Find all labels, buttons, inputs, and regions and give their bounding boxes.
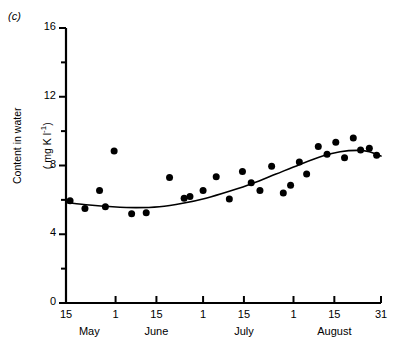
data-point [268, 163, 275, 170]
data-point [102, 203, 109, 210]
data-point [303, 171, 310, 178]
x-tick-label: 1 [279, 308, 309, 320]
panel-letter: (c) [8, 10, 21, 22]
data-point [332, 139, 339, 146]
data-point [366, 145, 373, 152]
x-tick-label: 1 [101, 308, 131, 320]
data-point [213, 173, 220, 180]
data-point [287, 182, 294, 189]
data-point [226, 196, 233, 203]
y-axis-label-line2-post: ) [41, 122, 53, 126]
data-point [357, 147, 364, 154]
month-label: August [304, 325, 364, 337]
x-tick-label: 1 [188, 308, 218, 320]
y-tick-label: 0 [20, 295, 56, 307]
data-point [280, 190, 287, 197]
month-label: May [59, 325, 119, 337]
x-tick-label: 15 [229, 308, 259, 320]
data-point [373, 152, 380, 159]
y-tick-label: 8 [20, 158, 56, 170]
data-point [111, 147, 118, 154]
data-point [128, 210, 135, 217]
trend-line-path [66, 150, 381, 207]
scatter-plot [0, 0, 402, 347]
data-point [315, 143, 322, 150]
data-point [81, 205, 88, 212]
month-label: July [214, 325, 274, 337]
y-axis-label-exponent: -1 [39, 126, 48, 133]
data-point [166, 174, 173, 181]
data-point [200, 187, 207, 194]
y-axis-label-line1: Content in water [11, 108, 23, 184]
y-tick-label: 4 [20, 226, 56, 238]
y-tick-label: 12 [20, 89, 56, 101]
data-point [186, 193, 193, 200]
x-tick-label: 15 [141, 308, 171, 320]
data-point [296, 159, 303, 166]
data-points [67, 135, 381, 218]
y-tick-label: 16 [20, 20, 56, 32]
data-point [248, 179, 255, 186]
figure-panel-c: (c) Content in water ( mg K l-1) 0481216… [0, 0, 402, 347]
data-point [256, 187, 263, 194]
plot-axes [66, 28, 381, 303]
x-tick-label: 15 [51, 308, 81, 320]
data-point [67, 197, 74, 204]
trend-line [66, 150, 381, 207]
data-point [96, 187, 103, 194]
data-point [143, 209, 150, 216]
x-tick-label: 15 [319, 308, 349, 320]
data-point [350, 135, 357, 142]
data-point [239, 168, 246, 175]
data-point [341, 154, 348, 161]
data-point [324, 151, 331, 158]
x-tick-label: 31 [366, 308, 396, 320]
month-label: June [126, 325, 186, 337]
